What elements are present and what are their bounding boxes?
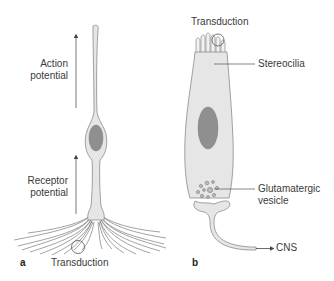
action-potential-label: Action potential bbox=[18, 58, 68, 82]
cns-label: CNS bbox=[276, 242, 297, 254]
stereocilia bbox=[196, 33, 225, 53]
neuron-body bbox=[85, 25, 107, 220]
glutamatergic-line2: vesicle bbox=[258, 195, 320, 207]
afferent-terminal bbox=[194, 201, 256, 250]
glutamatergic-vesicle-label: Glutamatergic vesicle bbox=[258, 183, 320, 207]
transduction-label-a: Transduction bbox=[51, 257, 108, 269]
action-potential-line2: potential bbox=[18, 70, 68, 82]
neuron-nucleus bbox=[89, 125, 103, 151]
receptor-potential-label: Receptor potential bbox=[18, 175, 68, 199]
glutamatergic-line1: Glutamatergic bbox=[258, 183, 320, 195]
dendrite-branches bbox=[14, 217, 166, 255]
diagram-drawing bbox=[0, 0, 334, 281]
receptor-potential-line2: potential bbox=[18, 187, 68, 199]
stereocilia-label: Stereocilia bbox=[258, 58, 305, 70]
action-potential-line1: Action bbox=[18, 58, 68, 70]
receptor-potential-line1: Receptor bbox=[18, 175, 68, 187]
hair-cell-nucleus bbox=[198, 107, 218, 149]
panel-b-letter: b bbox=[192, 257, 198, 268]
panel-a-letter: a bbox=[20, 257, 26, 268]
sensory-receptor-figure: Action potential Receptor potential a Tr… bbox=[0, 0, 334, 281]
transduction-label-b: Transduction bbox=[191, 16, 248, 28]
